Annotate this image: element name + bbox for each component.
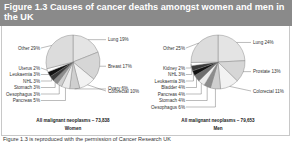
- total-label: All malignant neoplasms – 73,838: [36, 118, 110, 123]
- pie-label: Breast 17%: [108, 64, 132, 69]
- pie-label: Uterus 2%: [19, 66, 40, 71]
- pie-slice-lung: [218, 35, 245, 62]
- pie-label: Prostate 13%: [253, 69, 281, 74]
- figure-title: Figure 1.3 Causes of cancer deaths among…: [0, 0, 292, 26]
- men-pie: Lung 24%Prostate 13%Colorectal 11%Oesoph…: [151, 35, 284, 110]
- pie-label: Ovary 6%: [108, 86, 128, 91]
- pie-label: Other 29%: [18, 46, 40, 51]
- pie-label: Stomach 3%: [14, 85, 40, 90]
- pie-label: Lung 24%: [253, 40, 274, 45]
- pie-label: Colorectal 11%: [253, 89, 284, 94]
- figure-footnote: Figure 1.3 is reproduced with the permis…: [3, 136, 171, 142]
- pie-label: NHL 3%: [23, 79, 40, 84]
- pie-label: Stomach 4%: [159, 98, 185, 103]
- pie-label: Lung 19%: [108, 37, 129, 42]
- pie-label: NHL 3%: [168, 72, 185, 77]
- pie-label: Oesophagus 6%: [151, 105, 185, 110]
- women-pie: Lung 19%Breast 17%Colorectal 10%Ovary 6%…: [6, 35, 139, 103]
- pie-label: Bladder 4%: [161, 85, 185, 90]
- total-label: All malignant neoplasms – 79,653: [181, 118, 255, 123]
- pie-label: Kidney 2%: [163, 66, 185, 71]
- pie-title: Men: [213, 126, 222, 131]
- pie-charts: Lung 19%Breast 17%Colorectal 10%Ovary 6%…: [0, 26, 292, 136]
- pie-slice-other: [191, 35, 218, 62]
- pie-label: Other 25%: [163, 46, 185, 51]
- pie-title: Women: [65, 126, 82, 131]
- pie-label: Oesophagus 3%: [6, 92, 40, 97]
- pie-label: Leukaemia 3%: [155, 79, 185, 84]
- pie-label: Leukaemia 3%: [10, 72, 40, 77]
- pie-label: Pancreas 5%: [13, 98, 40, 103]
- pie-label: Pancreas 4%: [158, 92, 185, 97]
